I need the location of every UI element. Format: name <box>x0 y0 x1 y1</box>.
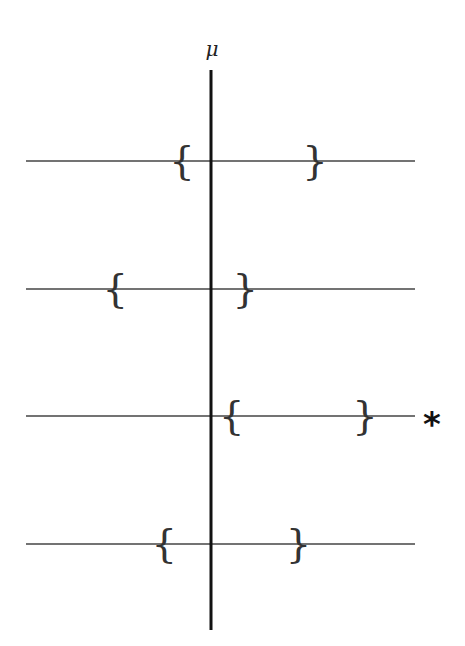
confidence-interval-diagram: {}{}{}*{} μ <box>0 0 465 646</box>
interval-upper-brace: } <box>233 265 258 311</box>
interval-upper-brace: } <box>302 137 327 183</box>
interval-lower-brace: { <box>151 520 176 566</box>
interval-lower-brace: { <box>219 392 244 438</box>
interval-row: {} <box>26 137 415 183</box>
interval-upper-brace: } <box>352 392 377 438</box>
interval-row: {}* <box>26 392 441 444</box>
interval-lower-brace: { <box>169 137 194 183</box>
mu-label: μ <box>206 37 219 61</box>
miss-marker-asterisk: * <box>423 404 441 444</box>
interval-row: {} <box>26 265 415 311</box>
interval-lower-brace: { <box>103 265 128 311</box>
interval-row: {} <box>26 520 415 566</box>
interval-rows: {}{}{}*{} <box>26 137 441 566</box>
interval-upper-brace: } <box>286 520 311 566</box>
